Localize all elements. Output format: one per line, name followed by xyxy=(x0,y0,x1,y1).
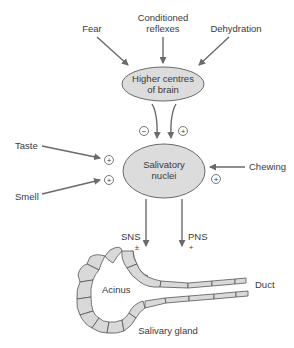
label-salivatory-line1: Salivatory xyxy=(143,159,185,170)
label-duct: Duct xyxy=(255,279,275,290)
label-higher-centres-line2: of brain xyxy=(147,84,179,95)
sign-pns: + xyxy=(189,243,194,252)
sign-higher-left: − xyxy=(142,127,147,136)
label-higher-centres-line1: Higher centres xyxy=(132,73,194,84)
label-smell: Smell xyxy=(15,191,39,202)
sign-higher-right: + xyxy=(181,127,186,136)
sign-taste: + xyxy=(107,156,112,165)
arrow-higher-to-nuclei-excite xyxy=(171,104,176,138)
label-taste: Taste xyxy=(15,140,38,151)
label-acinus: Acinus xyxy=(102,284,131,295)
label-dehydration: Dehydration xyxy=(210,23,261,34)
arrow-dehydration xyxy=(199,37,229,65)
label-conditioned-line2: reflexes xyxy=(146,23,180,34)
arrow-smell xyxy=(42,180,100,194)
label-pns: PNS xyxy=(188,231,208,242)
label-salivatory-line2: nuclei xyxy=(152,170,177,181)
sign-smell: + xyxy=(107,176,112,185)
label-chewing: Chewing xyxy=(249,161,286,172)
label-conditioned-line1: Conditioned xyxy=(138,12,189,23)
arrow-higher-to-nuclei-inhibit xyxy=(152,104,157,138)
arrow-taste xyxy=(42,146,100,158)
sign-sns: ± xyxy=(135,243,140,252)
caption-salivary-gland: Salivary gland xyxy=(138,325,198,336)
salivation-control-diagram: Fear Conditioned reflexes Dehydration Hi… xyxy=(0,0,294,348)
sign-chewing: + xyxy=(214,175,219,184)
arrow-fear xyxy=(97,37,128,65)
label-sns: SNS xyxy=(121,231,141,242)
label-fear: Fear xyxy=(82,23,102,34)
